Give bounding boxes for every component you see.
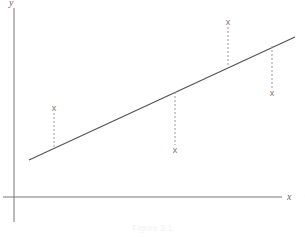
data-point-marker: x bbox=[173, 145, 178, 155]
y-axis-label: y bbox=[8, 0, 14, 8]
data-point-marker: x bbox=[226, 17, 231, 27]
regression-diagram: y x xxxx bbox=[0, 0, 305, 237]
x-axis-label: x bbox=[286, 191, 292, 202]
data-point-marker: x bbox=[52, 103, 57, 113]
data-point-marker: x bbox=[270, 88, 275, 98]
regression-line bbox=[29, 37, 295, 160]
figure-caption: Figure 3.1 bbox=[0, 223, 305, 233]
